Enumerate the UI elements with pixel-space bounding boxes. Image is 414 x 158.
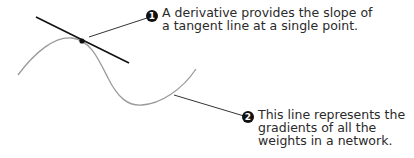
leader-line-1 <box>89 18 147 37</box>
annotation-text-1: A derivative provides the slope of a tan… <box>162 6 372 32</box>
gradient-curve <box>18 38 196 105</box>
annotation-2-line-3: weights in a network. <box>258 134 405 147</box>
tangent-point <box>79 38 84 43</box>
annotation-text-2: This line represents the gradients of al… <box>258 108 405 147</box>
annotation-1-line-2: a tangent line at a single point. <box>162 19 372 32</box>
annotation-badge-1: 1 <box>146 10 158 22</box>
leader-line-2 <box>174 95 244 116</box>
annotation-badge-2: 2 <box>242 111 254 123</box>
